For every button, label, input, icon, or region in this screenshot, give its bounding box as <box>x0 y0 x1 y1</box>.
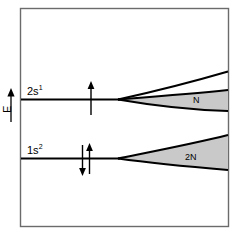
figure-frame <box>21 9 229 227</box>
level-label-2s-base: 2s <box>27 85 39 97</box>
level-label-1s: 1s2 <box>27 143 43 156</box>
figure-canvas: 2s1 1s2 N 2N E <box>0 0 239 234</box>
band-label-2n: 2N <box>185 152 197 162</box>
energy-axis-label: E <box>1 106 13 113</box>
band-diagram-svg <box>0 0 239 234</box>
band-label-n: N <box>193 95 200 105</box>
level-label-2s-superscript: 1 <box>39 84 43 91</box>
level-label-1s-superscript: 2 <box>39 143 43 150</box>
level-label-2s: 2s1 <box>27 84 43 97</box>
level-label-1s-base: 1s <box>27 144 39 156</box>
